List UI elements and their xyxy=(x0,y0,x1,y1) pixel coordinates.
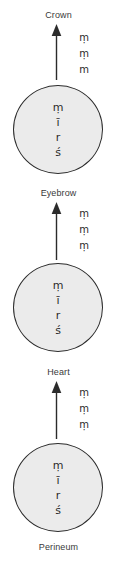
mantra-column-heart: ṃ ṃ ṃ xyxy=(74,385,94,433)
mantra-column-crown: ṃ ṃ m xyxy=(74,30,94,78)
label-eyebrow: Eyebrow xyxy=(0,188,117,198)
label-heart: Heart xyxy=(0,367,117,377)
mantra-syllable: ṃ xyxy=(79,401,89,417)
mantra-column-eyebrow: ṃ ṃ ṃ xyxy=(74,206,94,254)
mantra-ascent-diagram: Crown ṃ ṃ m ṃ ī r ś Eyebrow ṃ ṃ ṃ ṃ xyxy=(0,0,117,565)
node-lower-circle xyxy=(13,443,103,532)
mantra-syllable: ṃ xyxy=(79,30,89,46)
mantra-syllable: m xyxy=(79,62,89,78)
arrow-to-heart xyxy=(51,381,62,439)
mantra-syllable: ṃ xyxy=(79,222,89,238)
node-middle-circle xyxy=(13,263,103,352)
mantra-syllable: ṃ xyxy=(79,385,89,401)
arrow-to-crown xyxy=(51,24,62,80)
arrow-to-eyebrow xyxy=(51,202,62,260)
mantra-syllable: ṃ xyxy=(79,238,89,254)
mantra-syllable: ṃ xyxy=(79,46,89,62)
node-upper-circle xyxy=(13,85,103,174)
label-perineum: Perineum xyxy=(0,542,117,552)
mantra-syllable: ṃ xyxy=(79,417,89,433)
label-crown: Crown xyxy=(0,10,117,20)
mantra-syllable: ṃ xyxy=(79,206,89,222)
